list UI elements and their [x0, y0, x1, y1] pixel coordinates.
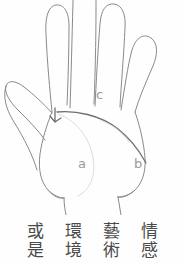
region-label-c: c	[96, 88, 103, 101]
caption-term-1: 情 感	[137, 222, 163, 260]
pinky-finger-outline	[121, 36, 157, 112]
wrist-base-right	[118, 191, 134, 197]
caption-char: 感	[141, 241, 158, 260]
region-label-b: b	[134, 157, 142, 170]
middle-finger-outline	[70, 0, 73, 108]
caption-char: 情	[141, 222, 158, 241]
wrist-right-line	[118, 197, 121, 215]
region-label-a: a	[78, 157, 86, 170]
caption-char: 是	[27, 241, 44, 260]
palm-left-edge	[39, 112, 64, 198]
caption-term-4: 或 是	[23, 222, 49, 260]
palm-fold-faint	[100, 120, 129, 142]
hand-palm-diagram: a b c	[0, 0, 185, 215]
figure-root: a b c 情 感 藝 術 環 境 或 是	[0, 0, 185, 263]
heart-line-crease	[57, 112, 146, 163]
index-finger-outline	[46, 5, 69, 112]
caption-char: 或	[27, 222, 44, 241]
caption-char: 環	[65, 222, 82, 241]
hand-outline-svg	[0, 0, 185, 215]
caption-term-3: 環 境	[61, 222, 87, 260]
thumb-outline-lower	[5, 86, 37, 170]
caption-terms-row: 情 感 藝 術 環 境 或 是	[0, 222, 185, 263]
caption-char: 境	[65, 241, 82, 260]
life-line-faint-arc	[58, 114, 94, 196]
wrist-left-line	[64, 198, 66, 215]
caption-char: 藝	[103, 222, 120, 241]
caption-char: 術	[103, 241, 120, 260]
caption-term-2: 藝 術	[99, 222, 125, 260]
